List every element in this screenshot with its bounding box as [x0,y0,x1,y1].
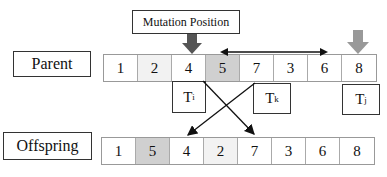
mutation-arrow-icon [182,34,202,54]
crossover-arrows-icon [188,81,255,135]
arrows-overlay [0,0,387,177]
swap-range-double-arrow-icon [220,48,328,56]
target-arrow-icon [347,30,369,54]
